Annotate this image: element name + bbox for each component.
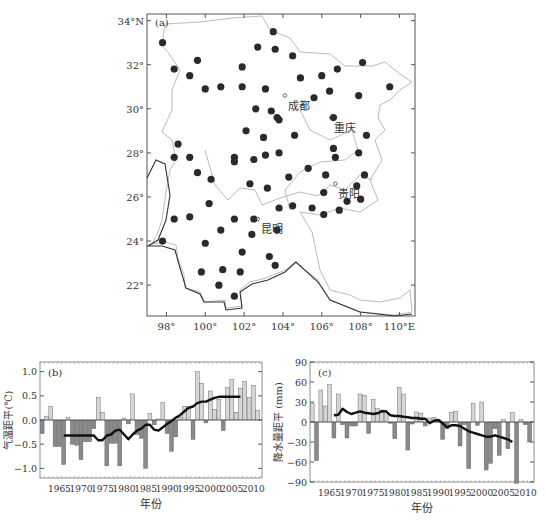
x-tick-label: 1990 <box>156 484 179 494</box>
bar <box>336 394 340 422</box>
bar <box>256 410 260 420</box>
x-axis-label: 年份 <box>411 501 433 515</box>
bar <box>221 420 225 431</box>
city-label: 昆明 <box>261 223 283 236</box>
temperature-anomaly-chart: 1.00.50.0−0.5−1.019651970197519801985199… <box>0 355 270 531</box>
bar <box>126 420 130 424</box>
station-marker <box>246 180 253 187</box>
station-marker <box>239 83 246 90</box>
bar <box>66 417 70 420</box>
bar <box>226 387 230 420</box>
station-marker <box>266 253 273 260</box>
bar <box>319 390 323 422</box>
bar <box>371 399 375 422</box>
bar <box>174 420 178 437</box>
bar <box>62 420 66 464</box>
station-marker <box>310 94 317 101</box>
station-marker <box>231 215 238 222</box>
station-marker <box>171 66 178 73</box>
y-tick-label: 1.0 <box>22 366 37 377</box>
x-tick-label: 2010 <box>514 488 537 498</box>
station-marker <box>219 266 226 273</box>
bar <box>178 417 182 420</box>
station-marker <box>272 262 279 269</box>
lon-tick-label: 102° <box>232 321 256 332</box>
station-marker <box>239 63 246 70</box>
station-marker <box>254 43 261 50</box>
station-marker <box>242 127 249 134</box>
station-marker <box>248 231 255 238</box>
bar <box>45 416 49 420</box>
bar <box>131 394 135 420</box>
bar <box>493 422 497 429</box>
station-marker <box>386 83 393 90</box>
x-tick-label: 1995 <box>177 484 200 494</box>
station-marker <box>363 132 370 139</box>
station-marker <box>159 39 166 46</box>
lat-tick-label: 32° <box>126 60 144 71</box>
station-marker <box>215 282 222 289</box>
lat-tick-label: 34°N <box>118 16 145 27</box>
bar <box>497 422 501 455</box>
lon-tick-label: 110°E <box>384 321 415 332</box>
station-marker <box>285 174 292 181</box>
station-marker <box>237 268 244 275</box>
station-marker <box>239 248 246 255</box>
bar <box>475 422 479 425</box>
bar <box>230 379 234 420</box>
bar <box>118 420 122 466</box>
station-marker <box>186 213 193 220</box>
x-tick-label: 2005 <box>220 484 243 494</box>
station-marker <box>231 293 238 300</box>
x-tick-label: 1970 <box>69 484 92 494</box>
y-tick-label: 30 <box>295 397 307 408</box>
bar <box>204 420 208 423</box>
bar <box>152 420 156 425</box>
bar <box>310 403 314 422</box>
station-marker <box>359 59 366 66</box>
station-marker <box>297 74 304 81</box>
bar <box>88 420 92 442</box>
station-marker <box>318 72 325 79</box>
x-tick-label: 1980 <box>383 488 406 498</box>
station-marker <box>260 134 267 141</box>
y-tick-label: 0 <box>301 417 307 428</box>
bar <box>332 422 336 438</box>
station-marker <box>272 46 279 53</box>
station-marker <box>171 154 178 161</box>
station-marker <box>250 156 257 163</box>
y-axis-label: 降水量距平 (mm) <box>272 382 284 462</box>
bar <box>92 420 96 429</box>
station-marker <box>174 140 181 147</box>
station-marker <box>320 211 327 218</box>
lon-tick-label: 106° <box>310 321 334 332</box>
station-marker <box>322 171 329 178</box>
bar <box>393 422 397 439</box>
lon-tick-label: 100° <box>193 321 217 332</box>
lon-tick-label: 104° <box>271 321 295 332</box>
bar <box>148 414 152 420</box>
station-marker <box>186 72 193 79</box>
bar <box>323 406 327 422</box>
bar <box>406 422 410 450</box>
bar <box>217 400 221 420</box>
bar <box>239 388 243 420</box>
station-marker <box>308 204 315 211</box>
station-marker <box>320 189 327 196</box>
station-marker <box>268 107 275 114</box>
bar <box>315 422 319 461</box>
panel-label: (c) <box>318 367 332 378</box>
bar <box>510 413 514 422</box>
bar <box>101 412 105 420</box>
station-marker <box>217 83 224 90</box>
lon-tick-label: 108° <box>349 321 373 332</box>
station-marker <box>355 149 362 156</box>
y-tick-label: −1.0 <box>14 463 37 474</box>
panel-label: (b) <box>48 367 62 378</box>
station-marker <box>231 158 238 165</box>
x-tick-label: 1985 <box>405 488 428 498</box>
x-axis-label: 年份 <box>140 497 162 511</box>
x-tick-label: 1990 <box>427 488 450 498</box>
bar <box>40 420 44 434</box>
bar <box>423 422 427 426</box>
